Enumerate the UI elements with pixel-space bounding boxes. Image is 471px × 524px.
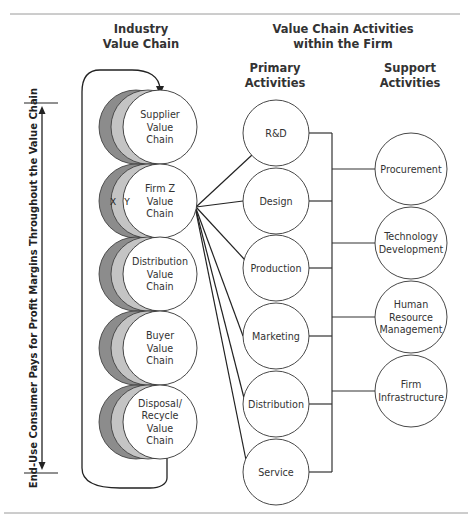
support-activities-header: Support Activities bbox=[380, 61, 441, 90]
primary-activity-marketing: Marketing bbox=[243, 303, 309, 369]
label-line: Chain bbox=[146, 281, 173, 292]
label-line: Value bbox=[147, 269, 173, 280]
label-line: Supplier bbox=[140, 109, 180, 120]
label-line: Chain bbox=[146, 208, 173, 219]
svg-text:Industry: Industry bbox=[114, 22, 169, 36]
support-activity-technology-development: TechnologyDevelopment bbox=[375, 207, 447, 279]
primary-activity-label: Marketing bbox=[252, 331, 300, 342]
label-line: Value bbox=[147, 196, 173, 207]
label-line: Human bbox=[394, 299, 429, 310]
label-line: Recycle bbox=[142, 410, 179, 421]
industry-value-chain-header: Industry Value Chain bbox=[103, 22, 179, 51]
primary-activity-production: Production bbox=[243, 235, 309, 301]
label-line: Value bbox=[147, 122, 173, 133]
primary-activities: R&DDesignProductionMarketingDistribution… bbox=[243, 100, 309, 505]
primary-activity-design: Design bbox=[243, 168, 309, 234]
svg-text:Value Chain Activities: Value Chain Activities bbox=[272, 22, 413, 36]
crescent-label-x: X bbox=[110, 197, 116, 207]
svg-text:Support: Support bbox=[384, 61, 437, 75]
primary-activity-service: Service bbox=[243, 439, 309, 505]
primary-activity-r-d: R&D bbox=[243, 100, 309, 166]
support-activity-firm-infrastructure: FirmInfrastructure bbox=[375, 355, 447, 427]
label-line: Chain bbox=[146, 134, 173, 145]
label-line: Chain bbox=[146, 355, 173, 366]
industry-node-buyer: BuyerValueChain bbox=[99, 311, 197, 385]
svg-text:Activities: Activities bbox=[245, 76, 306, 90]
primary-activities-header: Primary Activities bbox=[245, 61, 306, 90]
label-line: Chain bbox=[146, 435, 173, 446]
support-activity-procurement: Procurement bbox=[375, 133, 447, 205]
label-line: Firm Z bbox=[145, 183, 176, 194]
primary-activity-label: Distribution bbox=[248, 399, 304, 410]
label-line: Resource bbox=[389, 312, 433, 323]
arrow-up-icon bbox=[39, 106, 46, 114]
label-line: Firm bbox=[401, 379, 422, 390]
industry-node-firm-z: Firm ZValueChainXY bbox=[99, 164, 197, 238]
primary-activity-label: R&D bbox=[265, 128, 287, 139]
label-line: Management bbox=[379, 324, 442, 335]
label-line: Development bbox=[379, 244, 444, 255]
label-line: Buyer bbox=[146, 330, 174, 341]
primary-activity-label: Service bbox=[258, 467, 294, 478]
label-line: Value bbox=[147, 343, 173, 354]
primary-activity-label: Design bbox=[259, 196, 292, 207]
support-activity-human-resource-management: HumanResourceManagement bbox=[375, 281, 447, 353]
firm-activities-header: Value Chain Activities within the Firm bbox=[272, 22, 413, 51]
primary-activity-distribution: Distribution bbox=[243, 371, 309, 437]
industry-node-distribution: DistributionValueChain bbox=[99, 237, 197, 311]
industry-node-supplier: SupplierValueChain bbox=[99, 90, 197, 164]
support-activities: ProcurementTechnologyDevelopmentHumanRes… bbox=[375, 133, 447, 427]
label-line: Procurement bbox=[380, 164, 442, 175]
label-line: Disposal/ bbox=[138, 398, 183, 409]
consumer-pays-label: End-Use Consumer Pays for Profit Margins… bbox=[28, 88, 39, 488]
label-line: Distribution bbox=[132, 256, 188, 267]
industry-chain: SupplierValueChainFirm ZValueChainXYDist… bbox=[99, 90, 197, 459]
value-chain-diagram: Industry Value Chain Value Chain Activit… bbox=[0, 0, 471, 524]
label-line: Technology bbox=[383, 231, 438, 242]
label-line: Infrastructure bbox=[378, 392, 444, 403]
crescent-label-y: Y bbox=[123, 197, 130, 207]
primary-activity-label: Production bbox=[250, 263, 301, 274]
activity-trunk-connectors bbox=[309, 133, 375, 472]
svg-text:within the Firm: within the Firm bbox=[293, 37, 392, 51]
label-line: Value bbox=[147, 423, 173, 434]
svg-text:Activities: Activities bbox=[380, 76, 441, 90]
industry-node-disposal: Disposal/RecycleValueChain bbox=[99, 385, 197, 459]
arrow-down-icon bbox=[39, 462, 46, 470]
svg-text:Value Chain: Value Chain bbox=[103, 37, 179, 51]
svg-text:Primary: Primary bbox=[250, 61, 301, 75]
